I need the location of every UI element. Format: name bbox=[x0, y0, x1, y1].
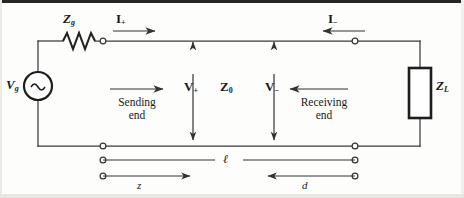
dimension-lines bbox=[103, 160, 355, 176]
line-impedance-label: Z0 bbox=[220, 80, 233, 95]
sending-end-label: Sendingend bbox=[97, 96, 177, 122]
reflected-current-label: I− bbox=[328, 12, 338, 27]
impedance-box-shape bbox=[409, 68, 431, 118]
ac-source-shape bbox=[24, 72, 52, 100]
circuit-svg bbox=[0, 0, 464, 198]
generator-impedance-label: Zg bbox=[63, 12, 75, 27]
source-label: Vg bbox=[6, 78, 19, 93]
load-impedance-label: ZL bbox=[436, 79, 449, 94]
resistor-zigzag-shape bbox=[63, 33, 95, 49]
receiving-end-label: Receivingend bbox=[282, 96, 366, 122]
reflected-voltage-label: V− bbox=[265, 80, 279, 95]
line-length-label: ℓ bbox=[223, 153, 228, 165]
incident-current-label: I+ bbox=[116, 12, 126, 27]
transmission-line-figure: Zg I+ I− Vg V+ V− Z0 ZL Sendingend Recei… bbox=[0, 0, 464, 198]
distance-z-label: z bbox=[137, 180, 141, 191]
voltage-arrows bbox=[193, 42, 274, 140]
incident-voltage-label: V+ bbox=[184, 80, 198, 95]
distance-d-label: d bbox=[302, 180, 308, 191]
